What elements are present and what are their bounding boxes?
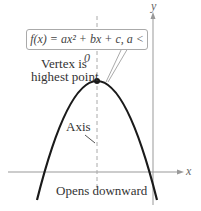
y-axis-arrow-icon — [151, 12, 156, 19]
opens-downward-label: Opens downward — [56, 184, 147, 198]
callout-line — [108, 48, 128, 82]
callout-line — [106, 48, 122, 82]
axis-label: Axis — [66, 120, 91, 134]
x-axis-label: x — [186, 164, 191, 178]
axis-leader-line — [85, 135, 95, 143]
x-axis-arrow-icon — [177, 170, 184, 175]
vertex-label-line2: highest point — [31, 70, 99, 84]
equation-label: f(x) = ax² + bx + c, a < 0 — [26, 29, 148, 50]
y-axis-label: y — [151, 0, 156, 13]
